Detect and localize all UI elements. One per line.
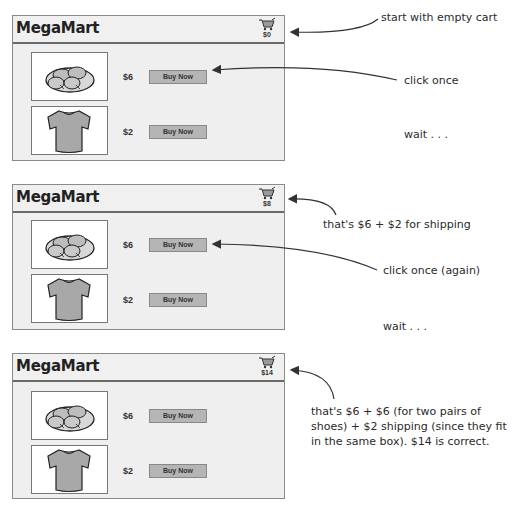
cart-total: $0 [256,31,278,39]
cart-total: $8 [256,200,278,208]
tshirt-image [31,106,108,155]
note-empty-cart: start with empty cart [381,11,497,24]
note-shipping: that's $6 + $2 for shipping [323,218,471,231]
tshirt-icon [32,275,107,322]
cart[interactable]: $0 [256,17,278,41]
shopping-cart-icon [258,355,276,369]
tshirt-image [31,274,108,323]
buy-now-shoes-button[interactable]: Buy Now [149,238,207,252]
buy-now-shoes-button[interactable]: Buy Now [149,409,207,423]
buy-now-shoes-button[interactable]: Buy Now [149,70,207,84]
tshirt-price: $2 [123,466,133,476]
shoes-image [31,52,108,101]
tshirt-icon [32,107,107,154]
store-frame-1: MegaMart $0 $6 Buy Now $2 Buy Now [12,15,285,161]
cart-total: $14 [256,369,278,377]
tshirt-image [31,445,108,494]
shopping-cart-icon [258,186,276,200]
store-header: MegaMart $8 [13,185,284,213]
shoes-image [31,391,108,440]
buy-now-tshirt-button[interactable]: Buy Now [149,293,207,307]
store-header: MegaMart $0 [13,16,284,44]
note-wait-1: wait . . . [404,128,448,141]
tshirt-price: $2 [123,127,133,137]
buy-now-tshirt-button[interactable]: Buy Now [149,125,207,139]
note-wait-2: wait . . . [383,320,427,333]
shoes-price: $6 [123,240,133,250]
shoes-icon [32,53,107,100]
shoes-icon [32,392,107,439]
shopping-cart-icon [258,17,276,31]
cart[interactable]: $14 [256,355,278,379]
shoes-image [31,220,108,269]
note-correct-total: that's $6 + $6 (for two pairs of shoes) … [311,404,511,449]
buy-now-tshirt-button[interactable]: Buy Now [149,464,207,478]
store-frame-2: MegaMart $8 $6 Buy Now $2 Buy Now [12,184,285,330]
store-header: MegaMart $14 [13,354,284,382]
shoes-price: $6 [123,411,133,421]
store-title: MegaMart [16,357,99,375]
shoes-icon [32,221,107,268]
store-title: MegaMart [16,19,99,37]
store-frame-3: MegaMart $14 $6 Buy Now $2 Buy Now [12,353,285,499]
tshirt-price: $2 [123,295,133,305]
note-click-again: click once (again) [383,264,480,277]
shoes-price: $6 [123,72,133,82]
cart[interactable]: $8 [256,186,278,210]
tshirt-icon [32,446,107,493]
store-title: MegaMart [16,188,99,206]
note-click-once: click once [404,74,459,87]
